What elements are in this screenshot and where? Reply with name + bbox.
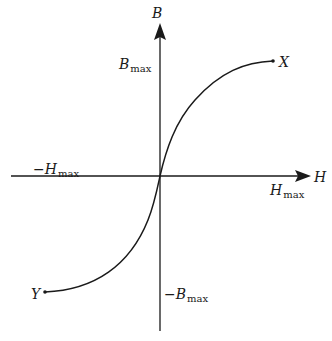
neg-h-max-label: −Hmax	[33, 161, 79, 179]
b-axis-label: B	[152, 5, 162, 21]
neg-b-max-main: B	[176, 286, 186, 302]
point-y-text: Y	[31, 286, 40, 302]
point-x-text: X	[279, 54, 289, 70]
h-max-sub: max	[283, 189, 304, 200]
point-x-label: X	[279, 54, 289, 70]
neg-h-max-main: H	[45, 161, 57, 177]
neg-h-max-sub: max	[58, 168, 79, 179]
b-max-label: Bmax	[119, 56, 151, 74]
neg-b-max-label: −Bmax	[164, 286, 208, 304]
h-max-main: H	[270, 182, 282, 198]
neg-b-max-sub: max	[187, 293, 208, 304]
point-y-dot	[43, 290, 47, 294]
neg-b-max-sign: −	[164, 286, 176, 302]
b-max-sub: max	[130, 63, 151, 74]
neg-h-max-sign: −	[33, 161, 45, 177]
h-axis-label: H	[314, 169, 326, 185]
point-x-dot	[271, 59, 275, 63]
b-axis-label-text: B	[152, 5, 162, 21]
h-max-label: Hmax	[270, 182, 304, 200]
h-axis-label-text: H	[314, 169, 326, 185]
point-y-label: Y	[31, 286, 40, 302]
b-max-main: B	[119, 56, 129, 72]
